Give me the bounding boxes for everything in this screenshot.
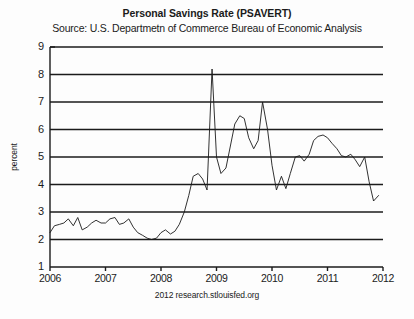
data-line-psavert xyxy=(50,69,379,240)
plot-area xyxy=(0,0,414,319)
chart-footer: 2012 research.stlouisfed.org xyxy=(0,290,414,300)
gridlines xyxy=(50,47,383,240)
chart-container: Personal Savings Rate (PSAVERT) Source: … xyxy=(0,0,414,319)
